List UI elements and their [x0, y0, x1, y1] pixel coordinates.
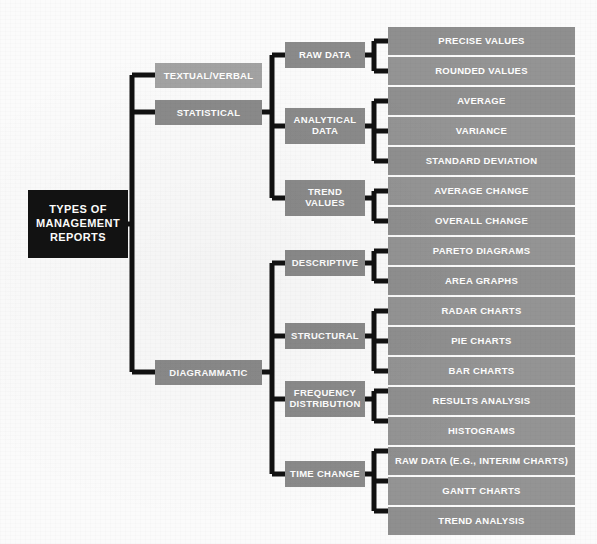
leaf-bar-charts[interactable]: BAR CHARTS — [388, 357, 575, 385]
leaf-precise-values[interactable]: PRECISE VALUES — [388, 27, 575, 55]
node-level3-frequency-distribution[interactable]: FREQUENCY DISTRIBUTION — [285, 381, 365, 417]
node-level3-structural[interactable]: STRUCTURAL — [285, 323, 365, 349]
level3-time-change-line-1: TIME CHANGE — [290, 469, 360, 480]
level3-trend-line-2: VALUES — [305, 198, 345, 209]
level3-frequency-line-2: DISTRIBUTION — [289, 399, 360, 410]
node-level2-statistical[interactable]: STATISTICAL — [155, 100, 262, 125]
node-level3-analytical-data[interactable]: ANALYTICAL DATA — [285, 108, 365, 144]
leaf-average-change[interactable]: AVERAGE CHANGE — [388, 177, 575, 205]
node-level3-time-change[interactable]: TIME CHANGE — [285, 461, 365, 487]
leaf-standard-deviation[interactable]: STANDARD DEVIATION — [388, 147, 575, 175]
leaf-variance[interactable]: VARIANCE — [388, 117, 575, 145]
leaf-raw-data-interim-charts[interactable]: RAW DATA (E.G., INTERIM CHARTS) — [388, 447, 575, 475]
level3-structural-line-1: STRUCTURAL — [291, 331, 359, 342]
node-level2-textual-verbal[interactable]: TEXTUAL/VERBAL — [155, 63, 262, 88]
level3-raw-data-line-1: RAW DATA — [299, 50, 351, 61]
leaf-rounded-values[interactable]: ROUNDED VALUES — [388, 57, 575, 85]
leaf-pareto-diagrams[interactable]: PARETO DIAGRAMS — [388, 237, 575, 265]
diagram-canvas: TYPES OF MANAGEMENT REPORTS TEXTUAL/VERB… — [0, 0, 597, 544]
node-level3-descriptive[interactable]: DESCRIPTIVE — [285, 250, 365, 276]
leaf-gantt-charts[interactable]: GANTT CHARTS — [388, 477, 575, 505]
leaf-overall-change[interactable]: OVERALL CHANGE — [388, 207, 575, 235]
root-line-2: MANAGEMENT — [36, 217, 120, 231]
leaf-results-analysis[interactable]: RESULTS ANALYSIS — [388, 387, 575, 415]
node-level2-diagrammatic[interactable]: DIAGRAMMATIC — [155, 360, 262, 385]
leaf-trend-analysis[interactable]: TREND ANALYSIS — [388, 507, 575, 535]
leaf-area-graphs[interactable]: AREA GRAPHS — [388, 267, 575, 295]
leaf-average[interactable]: AVERAGE — [388, 87, 575, 115]
leaf-pie-charts[interactable]: PIE CHARTS — [388, 327, 575, 355]
node-level3-trend-values[interactable]: TREND VALUES — [285, 180, 365, 216]
node-level3-raw-data[interactable]: RAW DATA — [285, 42, 365, 68]
leaf-radar-charts[interactable]: RADAR CHARTS — [388, 297, 575, 325]
node-root-types-of-management-reports[interactable]: TYPES OF MANAGEMENT REPORTS — [28, 190, 128, 258]
level3-descriptive-line-1: DESCRIPTIVE — [292, 258, 359, 269]
root-line-3: REPORTS — [36, 231, 120, 245]
leaf-histograms[interactable]: HISTOGRAMS — [388, 417, 575, 445]
level3-analytical-line-2: DATA — [294, 126, 357, 137]
root-line-1: TYPES OF — [36, 203, 120, 217]
